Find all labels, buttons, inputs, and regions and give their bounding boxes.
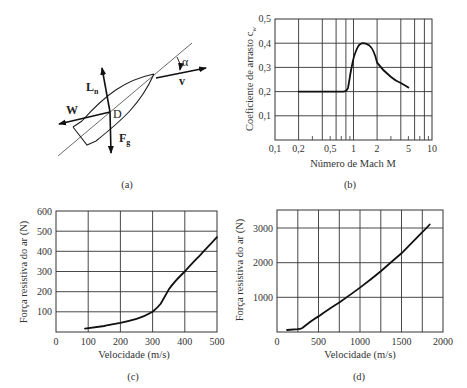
- xtick-b: 0,5: [324, 143, 337, 154]
- ytick-c: 200: [37, 286, 52, 297]
- xtick-d: 500: [311, 336, 326, 347]
- ytick-c: 300: [37, 266, 52, 277]
- xtick-d: 1000: [350, 336, 370, 347]
- ytick-c: 600: [37, 206, 52, 217]
- xtick-b: 5: [406, 143, 411, 154]
- xlabel-b: Número de Mach M: [310, 158, 396, 169]
- ytick-c: 100: [37, 306, 52, 317]
- xtick-b: 0,2: [292, 143, 305, 154]
- panel-a-diagram: Ln W D Fg α v (a): [58, 43, 206, 191]
- panel-c-chart: 600 500 400 300 200 100 0 100 200 300 40…: [18, 206, 225, 384]
- xtick-c: 300: [145, 336, 160, 347]
- figure-canvas: Ln W D Fg α v (a): [0, 0, 467, 388]
- ytick-b: 0,5: [259, 13, 272, 24]
- xtick-b: 0,1: [269, 143, 282, 154]
- xtick-c: 500: [210, 336, 225, 347]
- xtick-c: 200: [113, 336, 128, 347]
- panel-d-chart: 3000 2000 1000 0 500 1000 1500 2000 Velo…: [234, 210, 453, 383]
- xtick-d: 1500: [392, 336, 412, 347]
- ytick-b: 0,3: [259, 62, 272, 73]
- weight-label: W: [66, 103, 78, 117]
- ytick-c: 400: [37, 246, 52, 257]
- drag-force-curve-d: [287, 225, 430, 331]
- ytick-b: 0,2: [259, 86, 272, 97]
- ytick-b: 0,1: [259, 110, 272, 121]
- xtick-b: 1: [351, 143, 356, 154]
- angle-alpha-label: α: [182, 55, 189, 69]
- ylabel-c: Força resistiva do ar (N): [18, 220, 30, 323]
- ylabel-d: Força resistiva do ar (N): [234, 218, 246, 321]
- ytick-b: 0,4: [259, 38, 272, 49]
- caption-b: (b): [344, 179, 357, 191]
- xtick-c: 0: [54, 336, 59, 347]
- lift-label: Ln: [86, 80, 99, 96]
- caption-a: (a): [121, 179, 133, 191]
- xlabel-c: Velocidade (m/s): [98, 349, 170, 361]
- caption-d: (d): [353, 371, 366, 383]
- ytick-d: 1000: [253, 292, 273, 303]
- angle-arc-icon: [177, 57, 180, 70]
- xtick-b: 10: [427, 143, 437, 154]
- caption-c: (c): [127, 371, 139, 383]
- panel-b-chart: 0,5 0,4 0,3 0,2 0,1 0,1 0,2 0,5 1 2 5 10…: [244, 13, 437, 191]
- point-d-label: D: [113, 107, 122, 121]
- xtick-b: 2: [375, 143, 380, 154]
- ytick-d: 3000: [253, 223, 273, 234]
- xtick-d: 0: [275, 336, 280, 347]
- ylabel-b: Coeficiente de arrasto cw: [244, 27, 258, 131]
- lift-arrow-icon: [102, 68, 110, 112]
- xlabel-d: Velocidade (m/s): [324, 349, 396, 361]
- ytick-c: 500: [37, 226, 52, 237]
- gravity-arrow-icon: [110, 112, 111, 153]
- xtick-c: 400: [177, 336, 192, 347]
- xtick-d: 2000: [433, 336, 453, 347]
- gravity-label: Fg: [119, 131, 130, 147]
- xtick-c: 100: [81, 336, 96, 347]
- ytick-d: 2000: [253, 257, 273, 268]
- velocity-label: v: [179, 74, 185, 88]
